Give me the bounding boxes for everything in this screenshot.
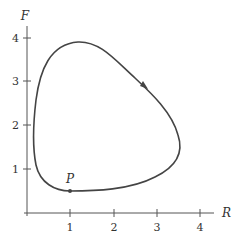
- trajectory-curve: [34, 42, 180, 191]
- x-tick-label: 4: [197, 221, 204, 234]
- point-p-marker: [68, 189, 72, 193]
- x-axis-label: R: [221, 206, 231, 220]
- y-tick-label: 3: [12, 75, 19, 88]
- y-tick-label: 2: [12, 119, 19, 132]
- x-tick-label: 2: [111, 221, 118, 234]
- y-axis-label: F: [20, 9, 30, 23]
- direction-arrow-icon: [140, 81, 148, 89]
- point-p-label: P: [65, 172, 75, 186]
- phase-plot: 1 2 3 4 R 1 2 3 4 F P: [0, 0, 238, 248]
- x-tick-label: 3: [154, 221, 161, 234]
- x-tick-label: 1: [67, 221, 74, 234]
- y-tick-label: 1: [12, 163, 19, 176]
- y-tick-label: 4: [12, 32, 19, 45]
